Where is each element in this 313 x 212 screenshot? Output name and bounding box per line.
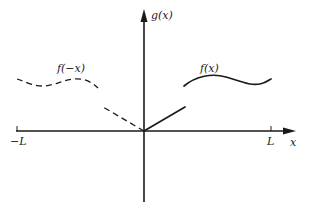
curve-f-neg-x <box>17 79 98 88</box>
curve-f-x <box>184 75 271 86</box>
x-axis <box>16 126 296 135</box>
x-axis-arrowhead-icon <box>283 128 296 135</box>
left-linear-segment <box>103 107 144 131</box>
x-axis-label: x <box>290 136 297 149</box>
even-extension-diagram: g(x) x −L L f(−x) f(x) <box>0 0 313 212</box>
tick-label-neg-L: −L <box>10 135 27 148</box>
tick-label-L: L <box>266 135 274 148</box>
curve-label-f-x: f(x) <box>199 62 219 75</box>
y-axis <box>141 9 148 202</box>
right-linear-segment <box>144 107 185 131</box>
curve-label-f-neg-x: f(−x) <box>56 62 85 75</box>
y-axis-arrowhead-icon <box>141 9 148 22</box>
y-axis-label: g(x) <box>151 9 173 22</box>
